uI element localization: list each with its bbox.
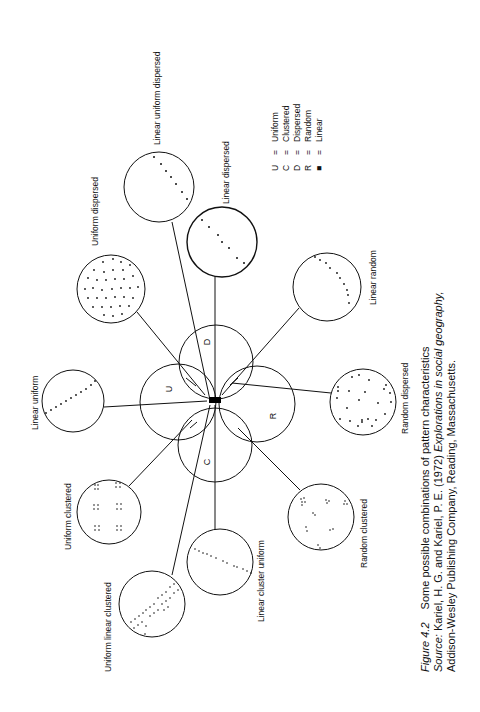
legend-text: Random — [303, 110, 313, 142]
label-uniform-linear-clustered: Uniform linear clustered — [103, 582, 113, 672]
hub-circle-uniform — [140, 364, 216, 440]
dots-uniform-dispersed — [84, 258, 139, 317]
dots-linear-uniform-dispersed — [153, 156, 188, 200]
connector-uniform-dispersed — [137, 312, 205, 395]
linear-marker-icon — [209, 397, 221, 403]
pattern-circle-linear-uniform-dispersed — [124, 152, 194, 222]
dots-linear-random — [314, 256, 350, 304]
figure-label: Figure 4.2 — [419, 622, 431, 672]
pattern-circle-random-dispersed — [330, 369, 396, 435]
legend-eq: = — [270, 150, 280, 155]
label-linear-cluster-uniform: Linear cluster uniform — [256, 540, 266, 622]
label-uniform-dispersed: Uniform dispersed — [90, 177, 100, 246]
caption-line-2: Source: Kariel, H. G. and Kariel, P. E. … — [432, 291, 444, 672]
dots-linear-uniform — [45, 380, 96, 414]
dots-random-clustered — [300, 497, 348, 549]
pattern-circle-linear-cluster-uniform — [187, 529, 253, 595]
label-linear-uniform-dispersed: Linear uniform dispersed — [152, 51, 162, 145]
hub-circle-dispersed — [179, 325, 253, 399]
dots-linear-cluster-uniform — [194, 548, 252, 574]
legend-item-uniform: U = Uniform — [270, 112, 280, 171]
dots-linear-dispersed — [201, 219, 245, 264]
legend-eq: = — [303, 150, 313, 155]
connector-linear-uniform — [104, 401, 207, 407]
caption-line-1: Figure 4.2 Some possible combinations of… — [419, 346, 431, 672]
legend-symbol-linear-icon: ■ — [314, 166, 324, 171]
legend-text: Dispersed — [292, 103, 302, 142]
legend-eq: = — [281, 150, 291, 155]
hub-letter-r: R — [268, 412, 278, 419]
legend-item-dispersed: D = Dispersed — [292, 103, 302, 171]
legend-symbol: U — [270, 165, 280, 171]
label-linear-dispersed: Linear dispersed — [221, 141, 231, 204]
legend-symbol: D — [292, 165, 302, 171]
dots-random-dispersed — [336, 374, 392, 427]
label-uniform-clustered: Uniform clustered — [63, 483, 73, 550]
pattern-circle-linear-uniform — [42, 370, 104, 432]
source-authors: Kariel, H. G. and Kariel, P. E. (1972) — [432, 452, 444, 631]
pattern-circle-random-clustered — [288, 484, 354, 550]
legend-item-random: R = Random — [303, 110, 313, 171]
label-random-dispersed: Random dispersed — [400, 362, 410, 434]
legend-text: Linear — [314, 118, 324, 142]
legend-eq: = — [314, 150, 324, 155]
legend-text: Clustered — [281, 105, 291, 142]
pattern-circle-uniform-dispersed — [77, 255, 145, 323]
pattern-combinations-diagram: U D R C — [0, 0, 480, 712]
pattern-labels: Linear uniform dispersed Linear disperse… — [30, 51, 410, 672]
connector-uniform-linear-clustered — [172, 405, 210, 575]
overlap-stroke — [190, 422, 197, 428]
label-linear-uniform: Linear uniform — [30, 376, 40, 430]
hub-circle-random — [219, 366, 295, 442]
connector-linear-uniform-dispersed — [172, 222, 210, 400]
dots-uniform-linear-clustered — [130, 583, 179, 635]
label-random-clustered: Random clustered — [359, 499, 369, 568]
pattern-circle-uniform-clustered — [77, 480, 141, 544]
dots-uniform-clustered — [93, 482, 122, 531]
figure-title: Some possible combinations of pattern ch… — [419, 346, 431, 609]
pattern-circle-linear-random — [293, 253, 361, 321]
hub-letter-d: D — [202, 338, 212, 345]
source-title: Explorations in social geography, — [432, 291, 444, 452]
hub-letter-c: C — [202, 458, 212, 465]
source-prefix: Source: — [432, 631, 444, 672]
legend-symbol: R — [303, 165, 313, 171]
legend-text: Uniform — [270, 112, 280, 142]
legend-item-linear: ■ = Linear — [314, 118, 324, 171]
connector-random-dispersed — [232, 383, 331, 393]
overlap-stroke — [238, 428, 246, 436]
connector-uniform-clustered — [129, 420, 192, 486]
hub-letter-u: U — [164, 386, 174, 393]
label-linear-random: Linear random — [368, 250, 378, 305]
caption: Figure 4.2 Some possible combinations of… — [419, 291, 457, 672]
connector-random-clustered — [238, 428, 300, 490]
caption-line-3: Addison-Wesley Publishing Company, Readi… — [445, 360, 457, 672]
legend-symbol: C — [281, 165, 291, 171]
legend-item-clustered: C = Clustered — [281, 105, 291, 171]
legend-eq: = — [292, 150, 302, 155]
pattern-circle-uniform-linear-clustered — [119, 571, 185, 637]
legend: U = Uniform C = Clustered D = Dispersed … — [270, 103, 324, 171]
